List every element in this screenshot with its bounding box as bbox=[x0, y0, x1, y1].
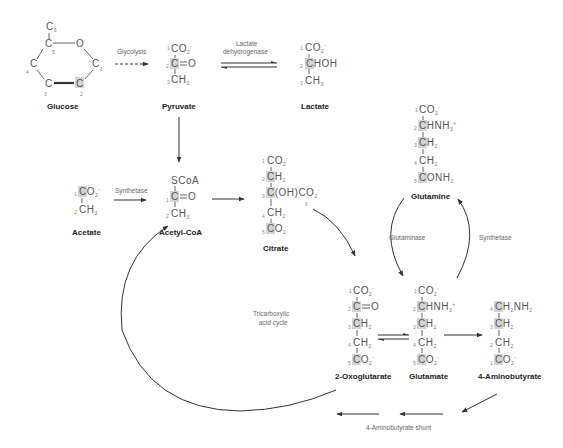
svg-text:1: 1 bbox=[262, 158, 265, 164]
lactate-label: Lactate bbox=[301, 102, 330, 111]
svg-text:2: 2 bbox=[80, 91, 83, 97]
glycolysis-label: Glycolysis bbox=[117, 48, 147, 56]
svg-text:CH3: CH3 bbox=[305, 75, 324, 87]
svg-text:CH2: CH2 bbox=[419, 137, 438, 149]
glutamine-synthetase-label: Synthetase bbox=[479, 234, 512, 242]
svg-text:3: 3 bbox=[167, 79, 170, 85]
svg-text:3: 3 bbox=[262, 193, 265, 199]
svg-text:5: 5 bbox=[52, 49, 55, 55]
svg-text:2: 2 bbox=[166, 63, 169, 69]
svg-text:2: 2 bbox=[348, 306, 351, 312]
svg-text:1: 1 bbox=[349, 288, 352, 294]
svg-text:CO2-: CO2- bbox=[79, 186, 100, 198]
svg-text:C: C bbox=[171, 58, 179, 69]
tca-label-1: Tricarboxylic bbox=[253, 310, 290, 318]
acetate-synthetase-label: Synthetase bbox=[115, 187, 148, 195]
pyruvate-structure: 1 CO2- 2 C O 3 CH3 Pyruvate bbox=[162, 43, 196, 111]
aminobutyrate-label: 4-Aminobutyrate bbox=[478, 372, 542, 381]
svg-text:1: 1 bbox=[300, 45, 303, 51]
svg-text:CO2-: CO2- bbox=[418, 354, 439, 366]
aminobutyrate-structure: 4 CH2NH2 3 CH2 2 CH2 1 CO2- 4-Aminobutyr… bbox=[478, 301, 542, 381]
svg-text:CO2-: CO2- bbox=[267, 155, 288, 167]
svg-text:CH2: CH2 bbox=[353, 318, 372, 330]
svg-text:2: 2 bbox=[300, 63, 303, 69]
svg-text:5: 5 bbox=[348, 360, 351, 366]
oxoglutarate-structure: 1 CO2- 2 C O 3 CH2 4 CH2 5 CO2- 2-Oxoglu… bbox=[335, 285, 392, 381]
pyruvate-label: Pyruvate bbox=[162, 102, 196, 111]
svg-text:O: O bbox=[188, 191, 196, 202]
svg-text:1: 1 bbox=[415, 107, 418, 113]
lactate-structure: 1 CO2- 2 CHOH 3 CH3 Lactate bbox=[300, 42, 337, 111]
svg-text:C(OH)CO2-: C(OH)CO2- bbox=[267, 187, 320, 199]
svg-text:CH2: CH2 bbox=[418, 318, 437, 330]
svg-text:O: O bbox=[188, 58, 196, 69]
glucose-c4: C bbox=[30, 58, 38, 69]
svg-text:CO2-: CO2- bbox=[418, 285, 439, 297]
svg-text:CH2: CH2 bbox=[418, 337, 437, 349]
svg-text:CH2: CH2 bbox=[495, 337, 514, 349]
svg-text:CH3: CH3 bbox=[171, 74, 190, 86]
svg-text:4: 4 bbox=[348, 342, 351, 348]
svg-text:CH3: CH3 bbox=[79, 204, 98, 216]
glutamine-synthetase-arrow bbox=[457, 199, 470, 278]
svg-text:1: 1 bbox=[167, 45, 170, 51]
glutamine-structure: 1 CO2- 2 CHNH3+ 3 CH2 4 CH2 5 CONH2 Glut… bbox=[411, 104, 457, 201]
svg-text:1: 1 bbox=[166, 197, 169, 203]
shunt-label: 4-Aminobutyrate shunt bbox=[366, 424, 432, 432]
svg-text:3: 3 bbox=[348, 324, 351, 330]
citrate-label: Citrate bbox=[263, 244, 289, 253]
glutamine-label: Glutamine bbox=[411, 192, 451, 201]
svg-text:3: 3 bbox=[490, 324, 493, 330]
svg-text:CO2-: CO2- bbox=[171, 43, 192, 55]
svg-text:CH3: CH3 bbox=[171, 208, 190, 220]
svg-text:4: 4 bbox=[26, 69, 29, 75]
glucose-c2: C bbox=[76, 78, 84, 89]
glucose-c3: C bbox=[45, 78, 53, 89]
svg-text:3: 3 bbox=[44, 91, 47, 97]
glucose-c1: C bbox=[92, 58, 100, 69]
oxoglutarate-label: 2-Oxoglutarate bbox=[335, 372, 392, 381]
svg-text:CH2: CH2 bbox=[267, 207, 286, 219]
glucose-c5: C bbox=[45, 38, 53, 49]
glucose-c6: C6 bbox=[46, 21, 57, 33]
svg-text:CH2NH2: CH2NH2 bbox=[495, 301, 532, 313]
ldh-label-2: dehydrogenase bbox=[223, 48, 268, 56]
svg-text:2: 2 bbox=[166, 213, 169, 219]
svg-text:CH2: CH2 bbox=[495, 318, 514, 330]
svg-text:2: 2 bbox=[414, 125, 417, 131]
svg-text:CO2-: CO2- bbox=[353, 354, 374, 366]
svg-text:3: 3 bbox=[414, 142, 417, 148]
svg-text:CHNH3+: CHNH3+ bbox=[419, 120, 457, 132]
metabolic-pathway-diagram: C6 C 5 O C 1 C 4 C 3 C 2 Glucose Glycoly… bbox=[0, 0, 563, 448]
svg-text:1: 1 bbox=[74, 191, 77, 197]
svg-text:C: C bbox=[171, 191, 179, 202]
svg-text:CO2-: CO2- bbox=[495, 354, 516, 366]
svg-text:O: O bbox=[371, 301, 379, 312]
acetate-label: Acetate bbox=[72, 228, 101, 237]
svg-text:5: 5 bbox=[414, 178, 417, 184]
svg-text:SCoA: SCoA bbox=[171, 175, 199, 186]
tca-label-2: acid cycle bbox=[259, 319, 288, 327]
svg-text:3: 3 bbox=[413, 324, 416, 330]
svg-text:2: 2 bbox=[262, 176, 265, 182]
svg-text:CH2: CH2 bbox=[353, 337, 372, 349]
svg-text:CHOH: CHOH bbox=[306, 58, 337, 69]
svg-text:4: 4 bbox=[414, 160, 417, 166]
ldh-label-1: Lactate bbox=[236, 40, 258, 47]
citrate-structure: 1 CO2- 2 CH2 3 C(OH)CO2- 6 4 CH2 5 CO2- … bbox=[262, 155, 320, 253]
tca-cycle-return-arrow bbox=[121, 226, 336, 411]
citrate-to-oxoglutarate-arrow bbox=[313, 209, 355, 256]
shunt-arrow-1 bbox=[462, 394, 497, 412]
acetyl-coa-label: Acetyl-CoA bbox=[159, 228, 202, 237]
svg-text:2: 2 bbox=[490, 342, 493, 348]
svg-text:2: 2 bbox=[413, 306, 416, 312]
glutamate-structure: 1 CO2- 2 CHNH3+ 3 CH2 4 CH2 5 CO2- Gluta… bbox=[409, 285, 456, 381]
svg-text:4: 4 bbox=[490, 306, 493, 312]
glucose-structure: C6 C 5 O C 1 C 4 C 3 C 2 Glucose bbox=[26, 21, 103, 111]
acetate-structure: 1 CO2- 2 CH3 Acetate bbox=[72, 186, 101, 237]
svg-text:5: 5 bbox=[262, 229, 265, 235]
oxoglutarate-glutamate-equilibrium-arrow bbox=[378, 333, 409, 341]
svg-text:CO2-: CO2- bbox=[353, 285, 374, 297]
svg-text:1: 1 bbox=[414, 288, 417, 294]
ldh-equilibrium-arrow bbox=[221, 61, 277, 69]
